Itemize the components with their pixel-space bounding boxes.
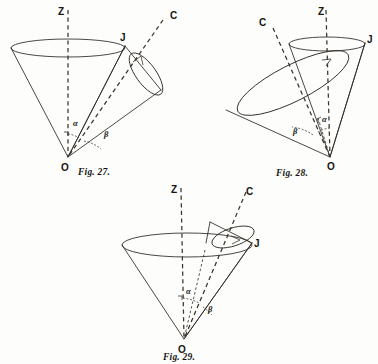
fig29-label-alpha: α	[186, 286, 191, 296]
fig28-label-j: J	[367, 34, 373, 45]
fig29-label-z: Z	[171, 184, 177, 195]
fig27-axis-c	[68, 20, 163, 157]
fig27-caption: Fig. 27.	[77, 167, 110, 177]
fig28-label-beta: β	[292, 126, 298, 136]
figure-27: Z C J O α β Fig. 27.	[11, 6, 177, 177]
fig27-arc-beta	[84, 141, 101, 149]
fig28-label-c: C	[259, 17, 266, 28]
fig28-label-alpha: α	[322, 114, 327, 124]
figure-28: Z C J O α β Fig. 28.	[226, 6, 373, 178]
figure-29: Z C J O α β Fig. 29.	[122, 184, 260, 362]
fig29-inner-cone-left-edge	[206, 222, 210, 243]
fig29-label-c: C	[246, 186, 253, 197]
fig28-label-z: Z	[318, 6, 324, 17]
fig27-inner-cone-upper-edge	[125, 46, 161, 90]
fig27-j-line	[68, 46, 125, 157]
fig28-j-arrowhead	[322, 59, 331, 66]
fig29-arc-alpha	[183, 298, 199, 303]
figure-plate: Z C J O α β Fig. 27. Z C J O α β Fig. 28…	[0, 0, 378, 364]
fig27-arc-alpha	[68, 134, 79, 138]
fig27-label-o: O	[61, 162, 69, 173]
fig29-right-angle-mark	[178, 296, 182, 300]
fig27-label-j: J	[120, 32, 126, 43]
fig27-inner-cone-lower-side	[68, 90, 161, 157]
fig28-j-line	[330, 43, 365, 157]
fig29-axis-c	[184, 192, 246, 339]
fig28-caption: Fig. 28.	[275, 168, 308, 178]
fig27-inner-cone-rim	[123, 48, 169, 100]
fig28-label-o: O	[327, 161, 335, 172]
fig29-axis-z	[181, 188, 184, 339]
fig29-inner-cone-top-edge	[210, 222, 252, 243]
fig28-tilted-cone-rim	[230, 39, 357, 127]
fig27-label-z: Z	[58, 6, 64, 17]
fig29-label-j: J	[254, 238, 260, 249]
fig29-label-beta: β	[207, 304, 213, 314]
fig29-caption: Fig. 29.	[162, 352, 195, 362]
fig27-label-c: C	[170, 10, 177, 21]
fig27-label-alpha: α	[73, 118, 78, 128]
fig28-axis-c	[273, 28, 330, 157]
fig28-tilted-cone-lower-edge	[226, 110, 330, 157]
fig27-label-beta: β	[103, 129, 109, 139]
